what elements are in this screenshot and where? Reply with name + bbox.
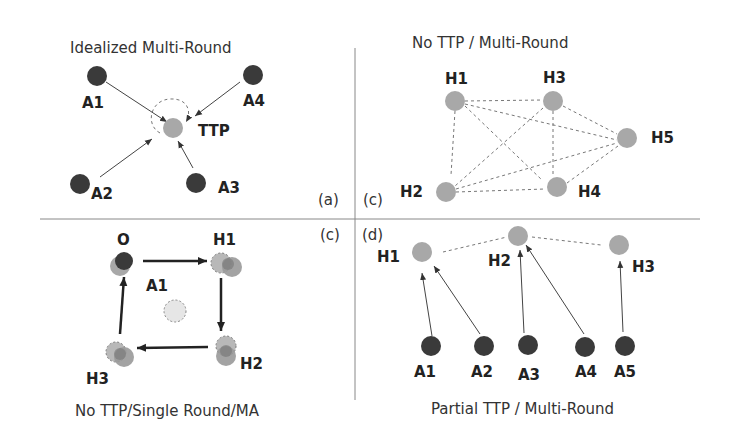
label-h2: H2 <box>400 183 423 201</box>
node-o <box>115 252 133 270</box>
label-a3: A3 <box>518 366 540 384</box>
node-center-ghost <box>164 300 186 322</box>
label-a1: A1 <box>146 277 168 295</box>
node-h1 <box>445 91 465 111</box>
label-h1: H1 <box>213 231 236 249</box>
node-a2 <box>70 174 90 194</box>
label-a5: A5 <box>614 363 636 381</box>
node-h2 <box>508 226 528 246</box>
label-h2: H2 <box>240 355 263 373</box>
panel-b-title: No TTP / Multi-Round <box>412 34 568 52</box>
label-h1: H1 <box>377 248 400 266</box>
panel-c-tag: (c) <box>320 226 340 244</box>
panel-b-tag: (c) <box>363 191 383 209</box>
label-a1: A1 <box>414 363 436 381</box>
node-a1 <box>87 66 107 86</box>
panel-c-title: No TTP/Single Round/MA <box>75 402 260 420</box>
label-h3: H3 <box>543 69 566 87</box>
node-ttp <box>163 118 183 138</box>
node-h2 <box>436 182 456 202</box>
node-a3 <box>518 335 538 355</box>
label-a4: A4 <box>243 92 265 110</box>
node-h4 <box>547 177 567 197</box>
label-ttp: TTP <box>198 122 230 140</box>
panel-a-tag: (a) <box>318 191 339 209</box>
label-a4: A4 <box>575 363 597 381</box>
panel-d-title: Partial TTP / Multi-Round <box>431 400 614 418</box>
label-a2: A2 <box>471 363 493 381</box>
node-a1 <box>421 336 441 356</box>
label-h4: H4 <box>578 183 601 201</box>
node-h5 <box>617 128 637 148</box>
node-a3 <box>186 173 206 193</box>
label-h1: H1 <box>445 70 468 88</box>
panel-d-tag: (d) <box>362 226 383 244</box>
node-a2 <box>474 336 494 356</box>
label-a1: A1 <box>82 94 104 112</box>
node-a4 <box>575 337 595 357</box>
label-h2: H2 <box>488 252 511 270</box>
panel-d-partial-ttp-multi-round: (d) H1 H2 H3 A1 A2 A3 A4 A5 Partial TTP … <box>362 226 655 418</box>
label-h3: H3 <box>632 258 655 276</box>
node-h3 <box>609 235 629 255</box>
panel-c-no-ttp-single-round-ma: (c) O H1 A1 H2 H3 No TTP/Single Round/MA <box>75 226 340 420</box>
node-a4 <box>243 65 263 85</box>
diagram-canvas: Idealized Multi-Round A1 A4 TTP A2 A3 (a… <box>0 0 729 433</box>
label-h5: H5 <box>651 129 674 147</box>
node-h1 <box>412 242 432 262</box>
label-h3: H3 <box>86 370 109 388</box>
label-o: O <box>117 231 130 249</box>
panel-a-title: Idealized Multi-Round <box>70 39 232 57</box>
node-h3 <box>543 91 563 111</box>
label-a3: A3 <box>218 179 240 197</box>
panel-b-no-ttp-multi-round: No TTP / Multi-Round H1 H3 H5 H2 H4 (c) <box>363 34 674 209</box>
node-a5 <box>615 336 635 356</box>
label-a2: A2 <box>91 185 113 203</box>
panel-a-idealized-multi-round: Idealized Multi-Round A1 A4 TTP A2 A3 (a… <box>70 39 339 209</box>
